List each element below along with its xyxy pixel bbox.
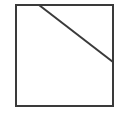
square-with-corner-cut-diagram <box>0 0 119 114</box>
diagonal-cut-line <box>39 5 113 62</box>
square-outline <box>16 5 113 106</box>
